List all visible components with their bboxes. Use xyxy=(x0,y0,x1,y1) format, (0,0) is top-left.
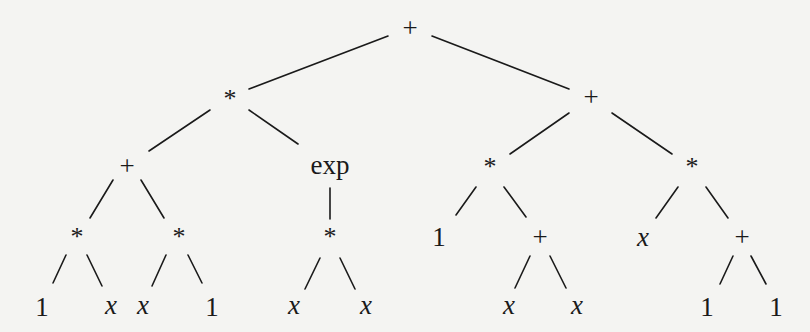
operator-node-n3: + xyxy=(119,153,134,180)
number-leaf-n22: 1 xyxy=(700,294,714,321)
tree-edge-n13-n23 xyxy=(751,256,766,284)
operator-node-n6: * xyxy=(686,154,699,180)
tree-edge-n0-n1 xyxy=(249,36,388,89)
tree-edge-n8-n17 xyxy=(188,255,202,283)
operator-node-n2: + xyxy=(583,84,598,111)
number-leaf-n17: 1 xyxy=(205,294,219,321)
operator-node-n13: + xyxy=(734,224,749,251)
operator-node-n11: + xyxy=(532,224,547,251)
tree-edge-n6-n13 xyxy=(706,187,728,218)
tree-edge-n1-n3 xyxy=(149,110,210,151)
variable-leaf-n18: x xyxy=(288,292,300,319)
variable-leaf-n16: x xyxy=(137,292,149,319)
variable-leaf-n21: x xyxy=(571,292,583,319)
number-leaf-n10: 1 xyxy=(432,224,446,251)
tree-edge-n9-n18 xyxy=(305,258,320,289)
tree-edge-n7-n15 xyxy=(87,255,102,286)
number-leaf-n23: 1 xyxy=(769,294,783,321)
variable-leaf-n15: x xyxy=(105,292,117,319)
tree-edge-n3-n7 xyxy=(90,180,113,218)
operator-node-n9: * xyxy=(324,224,337,250)
operator-node-n1: * xyxy=(224,86,237,112)
variable-leaf-n20: x xyxy=(503,292,515,319)
tree-edge-n5-n10 xyxy=(456,187,476,215)
tree-edge-n2-n6 xyxy=(612,113,672,154)
operator-node-n8: * xyxy=(173,224,186,250)
function-node-n4: exp xyxy=(311,152,350,179)
tree-edge-n13-n22 xyxy=(720,256,733,284)
tree-edge-n9-n19 xyxy=(340,258,355,289)
operator-node-n5: * xyxy=(484,154,497,180)
operator-node-n7: * xyxy=(71,224,84,250)
variable-leaf-n12: x xyxy=(637,224,649,251)
variable-leaf-n19: x xyxy=(360,292,372,319)
operator-node-n0: + xyxy=(402,15,417,42)
tree-edge-n1-n4 xyxy=(249,110,298,144)
tree-edge-n6-n12 xyxy=(656,187,678,218)
tree-edge-n0-n2 xyxy=(432,36,569,89)
tree-edge-n7-n14 xyxy=(53,255,66,283)
tree-edge-n8-n16 xyxy=(152,255,166,286)
number-leaf-n14: 1 xyxy=(35,294,49,321)
tree-edge-n2-n5 xyxy=(510,113,569,154)
tree-edge-n11-n20 xyxy=(515,256,530,288)
tree-edge-n3-n8 xyxy=(141,180,164,218)
tree-edge-n11-n21 xyxy=(550,256,566,288)
expression-tree-diagram: +*++exp*****1+x+1xx1xxxx11 xyxy=(0,0,810,332)
tree-edge-n5-n11 xyxy=(504,187,526,217)
